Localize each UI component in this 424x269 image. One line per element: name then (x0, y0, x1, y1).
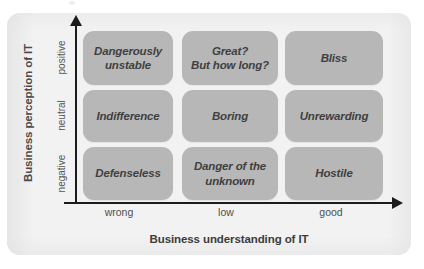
matrix-cell: Defenseless (83, 147, 173, 200)
matrix-figure: Business perception of IT Business under… (0, 0, 424, 269)
matrix-cell: Indifference (83, 90, 173, 142)
x-axis-arrowhead-icon (392, 197, 403, 209)
matrix-cell: Danger of the unknown (182, 147, 278, 200)
matrix-cell: Bliss (285, 31, 383, 85)
y-tick-label-neutral: neutral (56, 86, 67, 146)
matrix-cell: Great? But how long? (182, 31, 278, 85)
matrix-cell: Dangerously unstable (83, 31, 173, 85)
y-axis-title: Business perception of IT (22, 28, 34, 198)
x-tick-label-low: low (181, 206, 271, 218)
x-axis-title: Business understanding of IT (64, 233, 394, 245)
y-tick-label-positive: positive (56, 28, 67, 88)
y-axis-line (75, 24, 77, 204)
y-tick-label-negative: negative (56, 144, 67, 204)
y-axis-arrowhead-icon (70, 15, 82, 26)
x-tick-label-good: good (286, 206, 376, 218)
matrix-cell: Boring (182, 90, 278, 142)
x-axis-line (64, 202, 394, 204)
matrix-cell: Hostile (285, 147, 383, 200)
matrix-cell: Unrewarding (285, 90, 383, 142)
scan-artifact-speck (69, 1, 75, 5)
x-tick-label-wrong: wrong (74, 206, 164, 218)
